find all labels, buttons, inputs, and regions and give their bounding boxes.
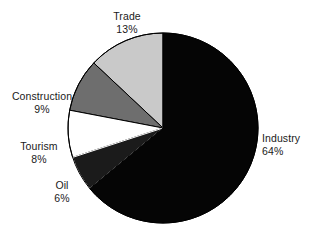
slice-label-trade: Trade 13%: [92, 10, 162, 36]
slice-label-oil-value: 6%: [36, 192, 88, 205]
pie-chart-figure: Trade 13% Construction 9% Tourism 8% Oil…: [0, 0, 320, 252]
slice-label-construction: Construction 9%: [2, 90, 82, 116]
slice-label-tourism-name: Tourism: [6, 140, 72, 153]
slice-label-oil-name: Oil: [36, 179, 88, 192]
slice-label-trade-name: Trade: [92, 10, 162, 23]
slice-label-tourism-value: 8%: [6, 153, 72, 166]
pie-chart-canvas: [0, 0, 320, 252]
slice-label-oil: Oil 6%: [36, 179, 88, 205]
slice-label-construction-value: 9%: [2, 103, 82, 116]
pie-slice-group: [68, 33, 258, 223]
slice-label-industry-value: 64%: [262, 145, 318, 158]
slice-label-industry-name: Industry: [262, 132, 318, 145]
slice-label-construction-name: Construction: [2, 90, 82, 103]
slice-label-industry: Industry 64%: [262, 132, 318, 158]
slice-label-trade-value: 13%: [92, 23, 162, 36]
slice-label-tourism: Tourism 8%: [6, 140, 72, 166]
